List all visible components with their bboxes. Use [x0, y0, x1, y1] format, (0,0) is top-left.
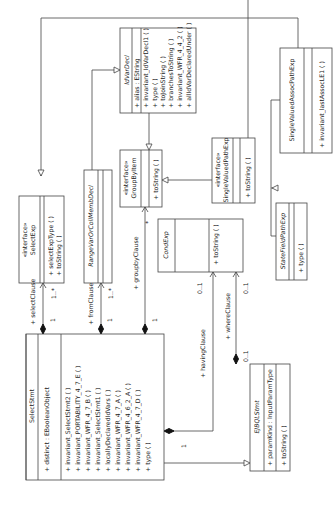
operation: + selectExpType ( ): [47, 216, 55, 276]
operation: + invariant_WFR_4_7_B ( ): [84, 390, 92, 472]
operation: + type ( ): [151, 78, 159, 108]
uml-diagram-canvas: SelectStmt + distinct : EBooleanObject +…: [0, 0, 336, 517]
operation: + allIdVarDeclaredUnder ( ): [185, 23, 192, 108]
class-name: SingleValuedPathExp: [222, 137, 230, 202]
operation: + invariant_SelectStmt1 ( ): [94, 388, 102, 472]
operation: + toString ( ): [55, 235, 63, 276]
operation: + toString ( ): [152, 159, 160, 200]
class-idvardecl[interactable]: IdVarDecl + alias : EString + invariant_…: [120, 23, 196, 113]
attribute: + distinct : EBooleanObject: [43, 386, 51, 472]
composition-diamond-icon: [41, 324, 46, 334]
operation: + invariant_IdVarDecl1 ( ): [142, 28, 150, 108]
operation: + type ( ): [144, 442, 152, 472]
multiplicity-label: *: [144, 221, 151, 224]
class-name: SelectStmt: [28, 388, 35, 422]
role-label: + selectClause: [29, 278, 36, 325]
generalization-triangle-icon: [38, 170, 44, 176]
operation: + toString ( ): [244, 157, 252, 198]
class-singlevaluedpathexp[interactable]: «interface» SingleValuedPathExp + toStri…: [212, 137, 255, 203]
class-rangevarorcollmembdecl[interactable]: RangeVarOrCollMembDecl: [84, 170, 112, 283]
multiplicity-label: 0..1: [242, 282, 249, 294]
generalization-svap-svp: [271, 100, 280, 188]
operation: + invariant_WFR_4_7_D ( ): [134, 390, 142, 472]
role-label: + fromClause: [87, 282, 94, 325]
operation: + toString ( ): [212, 224, 220, 265]
class-name: StateFieldPathExp: [279, 213, 287, 270]
operation: + locallyDeclaredIdVars ( ): [104, 390, 112, 472]
composition-diamond-icon: [99, 324, 104, 334]
class-name: SelectExp: [29, 225, 37, 256]
operation: + invariant_SelectStmt2 ( ): [64, 388, 72, 472]
class-name: IdVarDecl: [123, 55, 130, 85]
class-name: CondExp: [162, 231, 170, 259]
class-name: EJBQLStmt: [253, 400, 261, 434]
multiplicity-label: 1: [49, 318, 56, 322]
attribute: + paramKind : InputParamType: [266, 369, 274, 466]
role-label: + havingClause: [199, 329, 207, 378]
operation: + branchesToString ( ): [167, 39, 175, 108]
generalization-sfp-svp: [271, 188, 276, 236]
generalization-triangle-icon: [146, 144, 152, 150]
operation: + toJoinString ( ): [159, 56, 167, 108]
stereotype: «interface»: [122, 160, 129, 195]
multiplicity-label: 1..*: [107, 288, 114, 299]
multiplicity-label: 0..1: [196, 282, 203, 294]
multiplicity-label: 1..*: [50, 288, 57, 299]
generalization-triangle-icon: [162, 177, 168, 183]
operation: + invariant_WFR_4_6_2_A ( ): [124, 383, 132, 472]
class-statefieldpathexp[interactable]: StateFieldPathExp + type ( ): [276, 203, 307, 280]
generalization-triangle-icon: [114, 67, 120, 73]
role-label: + groupbyClause: [132, 236, 140, 290]
class-name: RangeVarOrCollMembDecl: [87, 185, 95, 267]
operation: + toString ( ): [280, 425, 288, 466]
generalization-rangevar-idvardecl: [92, 70, 115, 170]
multiplicity-label: 1: [106, 318, 113, 322]
multiplicity-label: 1: [151, 318, 158, 322]
generalization-triangle-icon: [244, 460, 250, 466]
class-singlevaluedassocpathexp[interactable]: SingleValuedAssocPathExp + invariant_las…: [280, 48, 332, 153]
class-selectexp[interactable]: «interface» SelectExp + selectExpType ( …: [19, 196, 64, 283]
stereotype: «interface»: [214, 152, 221, 187]
composition-diamond-icon: [143, 324, 148, 334]
operation: + type ( ): [297, 243, 305, 273]
class-name: SingleValuedAssocPathExp: [288, 58, 296, 141]
role-label: + whereClause: [224, 293, 231, 340]
class-selectstmt[interactable]: SelectStmt + distinct : EBooleanObject +…: [26, 334, 164, 480]
composition-diamond-icon: [234, 354, 239, 364]
operation: + invariant_WFR_4_4_2 ( ): [176, 26, 184, 108]
class-name: GroupByItem: [130, 158, 138, 199]
operation: + invariant_WFR_4_7_A ( ): [114, 390, 122, 472]
attribute: + alias : EString: [133, 58, 141, 108]
generalization-triangle-icon: [272, 185, 278, 191]
multiplicity-label: 1: [180, 444, 187, 448]
stereotype: «interface»: [21, 222, 28, 257]
class-groupbyitem[interactable]: «interface» GroupByItem + toString ( ): [120, 150, 162, 207]
operation: + invariant_PORTABILITY_4_7_E ( ): [74, 366, 82, 472]
composition-diamond-icon: [164, 429, 174, 434]
operation: + invariant_lastAssocLE1 ( ): [318, 61, 326, 148]
class-condexp[interactable]: CondExp + toString ( ): [158, 219, 243, 272]
class-ejbqlstmt[interactable]: EJBQLStmt + paramKind : InputParamType +…: [250, 364, 290, 471]
multiplicity-label: 0..1: [242, 350, 249, 362]
